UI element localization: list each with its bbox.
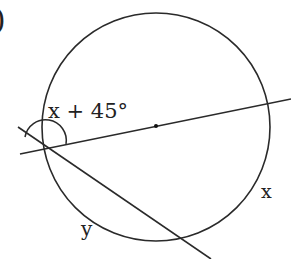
secant-line-lower [18,127,211,259]
arc-label-x: x [261,180,272,202]
angle-arc-marker [25,120,66,144]
center-dot [154,124,158,128]
arc-label-y: y [80,217,93,241]
angle-label: x + 45° [48,99,128,123]
problem-number-fragment: ) [0,2,6,37]
circle-angle-diagram: ) x + 45° x y [0,0,291,259]
